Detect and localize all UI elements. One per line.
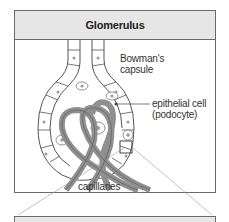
label-bowmans-line1: Bowman's xyxy=(120,53,164,64)
label-epithelial-cell: epithelial cell (podocyte) xyxy=(152,98,206,120)
zoom-guide-right xyxy=(133,148,212,215)
label-capillaries: capillaries xyxy=(78,181,120,192)
label-epithelial-line2: (podocyte) xyxy=(152,109,206,120)
capillaries xyxy=(62,102,150,190)
label-epithelial-line1: epithelial cell xyxy=(152,98,206,109)
label-bowmans-line2: capsule xyxy=(120,64,164,75)
label-bowmans-capsule: Bowman's capsule xyxy=(120,53,164,75)
